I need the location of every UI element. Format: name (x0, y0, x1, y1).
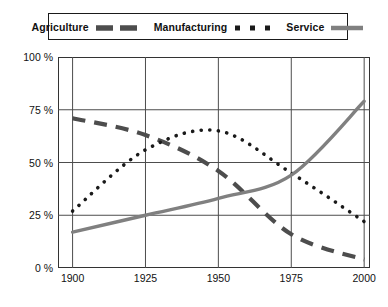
legend-label-service: Service (286, 21, 324, 33)
y-axis-tick-label: 50 % (3, 157, 53, 169)
legend-item-manufacturing: Manufacturing (154, 18, 274, 36)
chart-legend: Agriculture Manufacturing Service (48, 13, 348, 40)
y-axis-labels: 0 %25 %50 %75 %100 % (0, 57, 53, 268)
dotted-square-swatch (233, 18, 273, 36)
plot-canvas (58, 57, 370, 268)
solid-gray-swatch (330, 18, 364, 36)
legend-item-agriculture: Agriculture (32, 18, 141, 36)
grid-lines (58, 57, 370, 268)
x-axis-tick-label: 1950 (207, 272, 230, 284)
legend-item-service: Service (286, 18, 364, 36)
x-axis-labels: 19001925195019752000 (58, 272, 370, 292)
legend-label-agriculture: Agriculture (32, 21, 89, 33)
y-axis-tick-label: 75 % (3, 104, 53, 116)
line-chart: Agriculture Manufacturing Service (0, 0, 388, 307)
x-axis-tick-label: 1925 (134, 272, 157, 284)
y-axis-tick-label: 25 % (3, 209, 53, 221)
x-axis-tick-label: 1900 (61, 272, 84, 284)
dashed-thick-swatch (95, 18, 141, 36)
y-axis-tick-label: 100 % (3, 51, 53, 63)
y-axis-tick-label: 0 % (3, 262, 53, 274)
x-axis-tick-label: 1975 (280, 272, 303, 284)
x-axis-tick-label: 2000 (352, 272, 375, 284)
legend-label-manufacturing: Manufacturing (154, 21, 228, 33)
